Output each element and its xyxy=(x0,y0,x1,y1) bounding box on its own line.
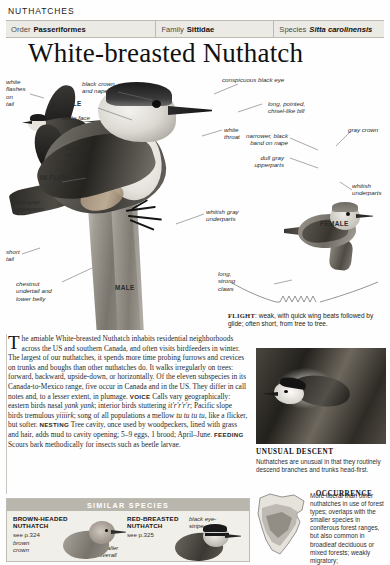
label-whitish-underparts: whitish underparts xyxy=(352,182,388,197)
species-account-text: The amiable White-breasted Nuthatch inha… xyxy=(8,334,248,492)
descending-bill xyxy=(262,392,278,396)
page-title: White-breasted Nuthatch xyxy=(28,38,303,69)
unusual-descent-text: Nuthatches are unusual in that they rout… xyxy=(256,458,386,474)
similar-species-2-page: see p.325 xyxy=(127,531,154,538)
label-female: FEMALE xyxy=(320,220,349,227)
taxonomy-order-value: Passeriformes xyxy=(33,25,85,34)
label-long-pointed-bill: long, pointed, chisel-like bill xyxy=(268,100,330,115)
label-black-crown-and-nape: black crown and nape xyxy=(82,80,126,95)
similar-species-1-page: see p.324 xyxy=(13,531,40,538)
voice-call-3: yiiiirk xyxy=(56,411,74,420)
rbn-black-cap xyxy=(203,524,227,532)
flight-caption-label: FLIGHT xyxy=(228,312,255,319)
label-white-face: white face xyxy=(62,114,102,121)
voice-call-1: yank yank xyxy=(64,401,94,410)
label-male-flight: MALE xyxy=(62,100,82,107)
occurrence-text: More liberal than other nuthatches in us… xyxy=(310,492,388,565)
unusual-descent-caption: UNUSUAL DESCENT Nuthatches are unusual i… xyxy=(256,448,386,474)
taxonomy-species-value: Sitta carolinensis xyxy=(309,25,372,34)
taxonomy-order-cell: Order Passeriformes xyxy=(6,21,156,37)
label-blue-gray-upperparts: blue-gray upperparts xyxy=(14,198,58,213)
taxonomy-bar: Order Passeriformes Family Sittidae Spec… xyxy=(6,20,384,38)
label-rounded-wings: rounded wings xyxy=(66,144,106,159)
taxonomy-species-key: Species xyxy=(279,25,306,34)
rbn-bill xyxy=(225,534,241,538)
flight-caption: FLIGHT: weak, with quick wing beats foll… xyxy=(228,312,386,329)
taxonomy-species-cell: Species Sitta carolinensis xyxy=(274,21,384,37)
bhn-bill xyxy=(111,530,126,534)
label-gray-crown: gray crown xyxy=(348,126,388,133)
similar-species-box: SIMILAR SPECIES BROWN-HEADED NUTHATCH se… xyxy=(6,498,250,562)
label-whitish-gray-underparts: whitish gray underparts xyxy=(206,208,264,223)
taxonomy-family-cell: Family Sittidae xyxy=(156,21,274,37)
label-white-flashes-on-tail: white flashes on tail xyxy=(6,78,40,108)
unusual-descent-photo xyxy=(256,348,386,444)
voice-text-4: ; song of all populations a mellow xyxy=(74,411,176,420)
voice-call-4: tu tu tu tu xyxy=(176,411,205,420)
label-male-main: MALE xyxy=(115,284,135,291)
nesting-label: NESTING xyxy=(39,421,69,428)
bhn-eye xyxy=(105,529,108,532)
voice-text-2: ; interior birds stuttering xyxy=(94,401,168,410)
taxonomy-family-key: Family xyxy=(161,25,183,34)
label-in-flight: IN FLIGHT xyxy=(40,174,75,181)
running-head: NUTHATCHES xyxy=(8,6,74,16)
feeding-text: Scours bark methodically for insects suc… xyxy=(8,440,181,449)
descending-eye xyxy=(284,390,288,393)
descending-nuthatch xyxy=(270,370,356,414)
unusual-descent-heading: UNUSUAL DESCENT xyxy=(256,448,386,456)
occurrence-range-map xyxy=(256,492,308,558)
taxonomy-family-value: Sittidae xyxy=(187,25,214,34)
range-map-svg xyxy=(256,492,308,558)
voice-call-2: it'r'r'r'r xyxy=(168,401,190,410)
text-column-rule xyxy=(6,334,7,494)
label-chestnut-undertail: chestnut undertail and lower belly xyxy=(16,280,72,302)
brown-headed-nuthatch-illustration xyxy=(61,519,127,561)
label-dull-gray-upperparts: dull gray upperparts xyxy=(234,154,284,169)
drop-cap: T xyxy=(8,334,22,350)
label-narrower-black-band: narrower, black band on nape xyxy=(228,132,288,147)
feeding-label: FEEDING xyxy=(214,431,244,438)
label-conspicuous-black-eye: conspicuous black eye xyxy=(222,76,308,83)
flight-path-diagram xyxy=(228,280,386,306)
similar-species-heading: SIMILAR SPECIES xyxy=(7,499,249,511)
red-breasted-nuthatch-illustration xyxy=(175,523,243,562)
similar-species-1-label-brown-crown: brown crown xyxy=(13,540,47,554)
label-short-tail: short tail xyxy=(6,248,30,263)
voice-label: VOICE xyxy=(130,393,151,400)
flight-path-svg xyxy=(228,280,386,306)
taxonomy-order-key: Order xyxy=(11,25,30,34)
